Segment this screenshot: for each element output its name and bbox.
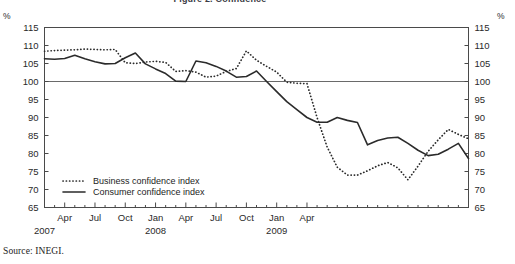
svg-text:Jul: Jul xyxy=(210,212,222,223)
svg-text:115: 115 xyxy=(23,22,38,33)
confidence-index-chart: 11511010510095908580757065 1151101051009… xyxy=(0,0,515,240)
svg-text:95: 95 xyxy=(28,94,39,105)
legend-label-business: Business confidence index xyxy=(93,176,200,186)
svg-text:Jan: Jan xyxy=(269,212,284,223)
x-axis-labels: AprJulOctJanAprJulOctJanApr xyxy=(57,212,314,223)
svg-text:90: 90 xyxy=(28,112,39,123)
svg-text:105: 105 xyxy=(23,58,39,69)
svg-text:2008: 2008 xyxy=(145,225,166,236)
series-business-confidence-index xyxy=(45,49,469,180)
svg-text:95: 95 xyxy=(475,94,486,105)
svg-text:Oct: Oct xyxy=(118,212,133,223)
chart-legend: Business confidence indexConsumer confid… xyxy=(63,176,205,197)
svg-text:90: 90 xyxy=(475,112,486,123)
svg-text:2007: 2007 xyxy=(34,225,55,236)
svg-text:70: 70 xyxy=(475,184,486,195)
svg-text:Jan: Jan xyxy=(148,212,163,223)
svg-text:Apr: Apr xyxy=(300,212,315,223)
svg-text:80: 80 xyxy=(28,148,39,159)
svg-text:110: 110 xyxy=(475,40,490,51)
svg-text:70: 70 xyxy=(28,184,39,195)
svg-text:105: 105 xyxy=(475,58,491,69)
svg-text:Apr: Apr xyxy=(178,212,193,223)
series-consumer-confidence-index xyxy=(45,53,469,158)
svg-text:115: 115 xyxy=(475,22,490,33)
svg-text:100: 100 xyxy=(23,76,39,87)
svg-text:85: 85 xyxy=(475,130,486,141)
svg-text:80: 80 xyxy=(475,148,486,159)
svg-text:110: 110 xyxy=(23,40,38,51)
x-axis-year-labels: 200720082009 xyxy=(34,225,287,236)
svg-text:Oct: Oct xyxy=(239,212,254,223)
source-note: Source: INEGI. xyxy=(3,246,64,256)
svg-text:Jul: Jul xyxy=(89,212,101,223)
svg-text:Apr: Apr xyxy=(57,212,72,223)
svg-text:65: 65 xyxy=(28,202,39,213)
x-axis xyxy=(45,203,469,208)
legend-label-consumer: Consumer confidence index xyxy=(93,187,205,197)
figure-container: Figure 2. Confidence % % 115110105100959… xyxy=(0,0,515,264)
svg-text:100: 100 xyxy=(475,76,491,87)
svg-text:65: 65 xyxy=(475,202,486,213)
series-layer xyxy=(45,49,469,180)
svg-text:75: 75 xyxy=(475,166,486,177)
svg-text:75: 75 xyxy=(28,166,39,177)
svg-text:85: 85 xyxy=(28,130,39,141)
svg-text:2009: 2009 xyxy=(266,225,287,236)
